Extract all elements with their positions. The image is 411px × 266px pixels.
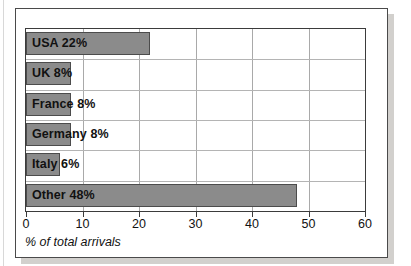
bar-label-usa: USA 22% — [32, 33, 87, 54]
bar-band: Germany 8% — [26, 120, 365, 150]
bar-label-uk: UK 8% — [32, 63, 72, 84]
x-axis-title: % of total arrivals — [25, 235, 121, 249]
x-tick-label: 60 — [345, 217, 385, 231]
scan-page: USA 22%UK 8%France 8%Germany 8%Italy 6%O… — [0, 0, 411, 266]
x-tick-label: 40 — [232, 217, 272, 231]
bar-band: UK 8% — [26, 59, 365, 89]
x-tick-label: 30 — [176, 217, 216, 231]
x-tick-label: 50 — [289, 217, 329, 231]
bar-label-other: Other 48% — [32, 185, 95, 206]
bar-band: USA 22% — [26, 29, 365, 59]
page-edge-line — [3, 0, 4, 266]
x-tick-label: 20 — [119, 217, 159, 231]
x-tick-label: 10 — [63, 217, 103, 231]
bar-label-italy: Italy 6% — [32, 154, 79, 175]
bar-label-germany: Germany 8% — [32, 124, 109, 145]
x-tick-label: 0 — [6, 217, 46, 231]
bar-band: Italy 6% — [26, 150, 365, 180]
figure-frame: USA 22%UK 8%France 8%Germany 8%Italy 6%O… — [15, 8, 388, 258]
bar-label-france: France 8% — [32, 94, 95, 115]
bar-band: Other 48% — [26, 181, 365, 211]
plot-area: USA 22%UK 8%France 8%Germany 8%Italy 6%O… — [25, 28, 366, 212]
bar-chart: USA 22%UK 8%France 8%Germany 8%Italy 6%O… — [16, 9, 387, 257]
bar-band: France 8% — [26, 90, 365, 120]
